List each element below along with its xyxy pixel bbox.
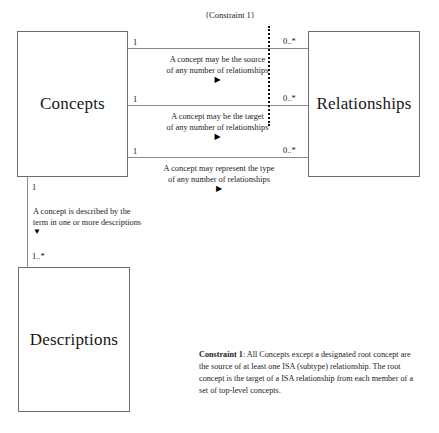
uml-class-diagram: Concepts Relationships Descriptions 1 0.…	[0, 0, 439, 433]
multiplicity-assoc1-source: 1	[133, 38, 137, 47]
association-label-assoc1-line2: of any number of relationships	[167, 66, 269, 75]
constraint-note-title: Constraint 1	[199, 350, 243, 359]
association-line-type[interactable]	[128, 157, 308, 158]
class-name-concepts: Concepts	[40, 94, 105, 114]
direction-arrow-right-icon: ▶	[133, 185, 305, 193]
association-line-target[interactable]	[128, 105, 308, 106]
association-label-assoc4-line1: A concept is described by the	[33, 207, 130, 216]
multiplicity-assoc4-target: 1..*	[32, 252, 45, 261]
class-name-relationships: Relationships	[316, 94, 411, 114]
association-label-source: A concept may be the source of any numbe…	[140, 54, 295, 84]
multiplicity-assoc2-source: 1	[133, 95, 137, 104]
constraint-note: Constraint 1: All Concepts except a desi…	[199, 349, 419, 397]
class-box-descriptions[interactable]: Descriptions	[18, 267, 130, 412]
constraint-marker-label: {Constraint 1}	[205, 10, 255, 20]
direction-arrow-down-icon: ▼	[33, 228, 183, 236]
association-label-assoc2-line2: of any number of relationships	[167, 123, 269, 132]
association-label-assoc3-line2: of any number of relationships	[168, 175, 270, 184]
association-line-described-by[interactable]	[27, 177, 28, 267]
association-label-type: A concept may represent the type of any …	[133, 163, 305, 193]
association-label-described-by: A concept is described by the term in on…	[33, 206, 183, 236]
association-line-source[interactable]	[128, 48, 308, 49]
association-label-assoc3-line1: A concept may represent the type	[164, 164, 275, 173]
constraint-dotted-line	[268, 26, 270, 126]
multiplicity-assoc1-target: 0..*	[283, 37, 296, 46]
association-label-assoc1-line1: A concept may be the source	[170, 55, 266, 64]
association-label-target: A concept may be the target of any numbe…	[140, 111, 295, 141]
multiplicity-assoc3-source: 1	[133, 147, 137, 156]
class-box-concepts[interactable]: Concepts	[17, 31, 128, 177]
multiplicity-assoc4-source: 1	[32, 183, 36, 192]
class-box-relationships[interactable]: Relationships	[308, 31, 420, 177]
association-label-assoc2-line1: A concept may be the target	[171, 112, 264, 121]
direction-arrow-right-icon: ▶	[140, 76, 295, 84]
class-name-descriptions: Descriptions	[30, 330, 118, 350]
association-label-assoc4-line2: term in one or more descriptions	[33, 218, 141, 227]
direction-arrow-right-icon: ▶	[140, 133, 295, 141]
multiplicity-assoc2-target: 0..*	[283, 94, 296, 103]
multiplicity-assoc3-target: 0..*	[283, 146, 296, 155]
